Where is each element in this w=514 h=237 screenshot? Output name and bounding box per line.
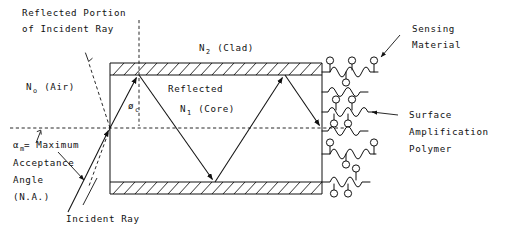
- n1-core-label-paren: (Core): [192, 103, 235, 114]
- polymer-chain-row-3: [322, 96, 374, 127]
- sensing-material-leader: [381, 35, 400, 57]
- sensing-material-label-line1: Sensing: [412, 23, 455, 34]
- critical-angle-symbol: ø: [128, 100, 134, 111]
- surface-polymer-label-line2: Amplification: [409, 126, 489, 137]
- polymer-chain-row-6: [322, 165, 370, 197]
- acceptance-angle-label-block: α m = Maximum Acceptance Angle (N.A.): [13, 139, 79, 202]
- critical-angle-subscript: c: [135, 106, 139, 114]
- top-cladding-hatching: [113, 63, 322, 75]
- polymer-chain-row-5: [322, 139, 378, 168]
- surface-polymer-label-line1: Surface: [409, 109, 452, 120]
- surface-polymer-leader: [372, 112, 398, 115]
- surface-polymer-label-line3: Polymer: [409, 143, 452, 154]
- alpha-symbol: α: [13, 139, 19, 150]
- incident-ray-leader: [83, 178, 97, 205]
- n0-air-label: N o (Air): [26, 81, 75, 95]
- incident-ray-label: Incident Ray: [66, 213, 140, 224]
- diagram-canvas: Reflected Portion of Incident Ray N o (A…: [0, 0, 514, 237]
- angle-label: Angle: [13, 174, 44, 185]
- reflected-label: Reflected: [168, 83, 223, 94]
- critical-angle-label: ø c: [128, 100, 139, 114]
- n0-air-label-subscript: o: [33, 87, 37, 95]
- n0-air-label-n: N: [26, 81, 32, 92]
- polymer-chain-row-2: [322, 88, 368, 97]
- polymer-chain-row-1: [322, 57, 378, 86]
- na-label: (N.A.): [13, 191, 50, 202]
- sensing-material-label-line2: Material: [412, 39, 461, 50]
- acceptance-angle-dashed-line: [89, 128, 110, 186]
- alpha-equals-maximum: = Maximum: [24, 139, 79, 150]
- reflected-portion-label-line2: of Incident Ray: [22, 23, 114, 34]
- n0-air-label-paren: (Air): [38, 81, 75, 92]
- reflected-portion-label-line1: Reflected Portion: [22, 7, 126, 18]
- n2-clad-label-subscript: 2: [206, 48, 210, 56]
- reflected-portion-ray: [86, 53, 111, 128]
- fiber-optic-sensor-diagram: Reflected Portion of Incident Ray N o (A…: [0, 0, 514, 237]
- n1-core-label-subscript: 1: [187, 109, 191, 117]
- acceptance-label: Acceptance: [13, 157, 74, 168]
- n2-clad-label: N 2 (Clad): [199, 42, 254, 56]
- n1-core-label: N 1 (Core): [180, 103, 235, 117]
- bottom-cladding-hatching: [113, 182, 322, 194]
- polymer-chain-row-4: [322, 127, 368, 136]
- n2-clad-label-n: N: [199, 42, 205, 53]
- n1-core-label-n: N: [180, 103, 186, 114]
- n2-clad-label-paren: (Clad): [211, 42, 254, 53]
